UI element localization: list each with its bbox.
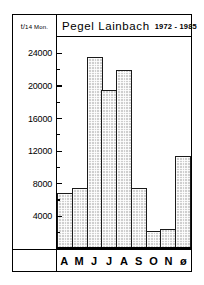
chart-title-years: 1972 - 1985 [155,22,197,31]
bar [160,229,176,249]
y-tick-label: 4000 [33,211,52,221]
x-tick-label: N [161,250,176,271]
bar [57,193,73,249]
figure-frame: t/14 Mon. Pegel Lainbach 1972 - 1985 400… [12,14,192,272]
y-axis-unit-cell: t/14 Mon. [13,15,56,37]
x-tick-label: S [131,250,146,271]
x-tick-label: M [72,250,87,271]
y-tick-minor [57,167,60,168]
plot-area [56,37,191,249]
y-tick-label: 20000 [28,81,52,91]
bar [72,188,88,249]
y-tick-label: 12000 [28,146,52,156]
y-tick-major [57,151,62,152]
x-tick-label: J [87,250,102,271]
corner-cell [13,249,56,271]
y-tick-minor [57,69,60,70]
x-tick-label: A [57,250,72,271]
y-tick-minor [57,134,60,135]
chart-title: Pegel Lainbach [62,20,150,32]
y-tick-major [57,216,62,217]
y-tick-minor [57,232,60,233]
y-tick-label: 8000 [33,179,52,189]
y-tick-major [57,85,62,86]
bar [175,156,191,249]
bar [101,90,117,249]
y-tick-major [57,183,62,184]
chart-title-bar: Pegel Lainbach 1972 - 1985 [56,15,191,37]
x-tick-label: O [146,250,161,271]
x-tick-label: J [102,250,117,271]
bar [116,70,132,249]
y-axis-labels: 4000800012000160002000024000 [13,37,56,249]
bar-series [57,37,191,249]
y-tick-minor [57,199,60,200]
y-tick-label: 24000 [28,48,52,58]
bar [131,188,147,249]
y-tick-major [57,118,62,119]
x-tick-label: A [117,250,132,271]
y-axis-unit-label: t/14 Mon. [21,23,48,30]
y-tick-major [57,53,62,54]
x-axis-labels: AMJJASONø [56,249,191,271]
y-tick-label: 16000 [28,114,52,124]
chart-figure: t/14 Mon. Pegel Lainbach 1972 - 1985 400… [0,0,204,285]
x-tick-label: ø [176,250,191,271]
bar [87,57,103,249]
y-tick-minor [57,102,60,103]
